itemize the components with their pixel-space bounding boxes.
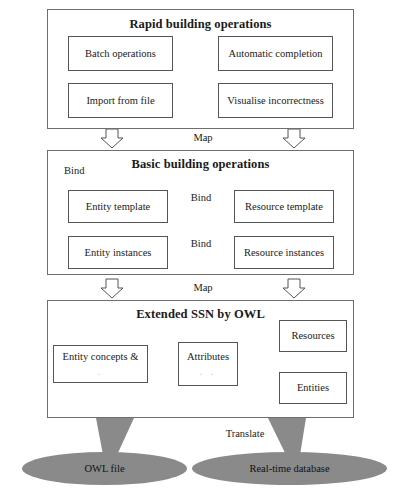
map-arrow-top-left bbox=[101, 129, 123, 148]
box-sublabel: . . bbox=[200, 365, 217, 378]
box-entities[interactable]: Entities bbox=[279, 372, 347, 404]
box-label: Visualise incorrectness bbox=[227, 94, 323, 107]
bind-label-instances: Bind bbox=[175, 238, 227, 249]
box-label: Batch operations bbox=[85, 47, 156, 60]
translate-label: Translate bbox=[205, 428, 285, 439]
box-label: Resources bbox=[291, 329, 334, 342]
datastore-label: Real-time database bbox=[249, 463, 329, 474]
box-entity-instances[interactable]: Entity instances bbox=[68, 236, 168, 269]
box-resources[interactable]: Resources bbox=[279, 320, 347, 352]
box-label: Entity concepts & bbox=[63, 350, 139, 363]
map-label-bottom: Map bbox=[163, 282, 243, 293]
box-attributes[interactable]: Attributes . . bbox=[178, 342, 238, 386]
map-arrow-bottom-left bbox=[101, 279, 123, 298]
map-arrow-top-right bbox=[283, 129, 305, 148]
box-sublabel: . bbox=[98, 365, 104, 378]
datastore-label: OWL file bbox=[84, 463, 124, 474]
map-arrow-bottom-right bbox=[283, 279, 305, 298]
datastore-owl-file[interactable]: OWL file bbox=[22, 452, 187, 485]
box-label: Attributes bbox=[187, 350, 229, 363]
box-resource-template[interactable]: Resource template bbox=[234, 190, 334, 223]
map-label-top: Map bbox=[163, 132, 243, 143]
architecture-diagram: Rapid building operations Batch operatio… bbox=[0, 0, 406, 491]
datastore-real-time-database[interactable]: Real-time database bbox=[192, 452, 387, 485]
bind-self-loop-label: Bind bbox=[64, 165, 110, 176]
panel-title-rapid: Rapid building operations bbox=[48, 17, 353, 32]
translate-wedge-left bbox=[96, 418, 134, 455]
box-automatic-completion[interactable]: Automatic completion bbox=[218, 36, 333, 71]
box-batch-operations[interactable]: Batch operations bbox=[68, 36, 173, 71]
box-resource-instances[interactable]: Resource instances bbox=[234, 236, 334, 269]
box-visualise-incorrectness[interactable]: Visualise incorrectness bbox=[218, 83, 333, 118]
box-entity-template[interactable]: Entity template bbox=[68, 190, 168, 223]
box-label: Entity instances bbox=[85, 246, 152, 259]
box-label: Entity template bbox=[86, 200, 150, 213]
box-label: Resource instances bbox=[244, 246, 324, 259]
box-import-from-file[interactable]: Import from file bbox=[68, 83, 173, 118]
box-label: Entities bbox=[297, 381, 329, 394]
box-entity-concepts[interactable]: Entity concepts & . bbox=[53, 345, 148, 383]
box-label: Automatic completion bbox=[228, 47, 322, 60]
box-label: Resource template bbox=[245, 200, 323, 213]
box-label: Import from file bbox=[86, 94, 154, 107]
bind-label-template: Bind bbox=[175, 192, 227, 203]
